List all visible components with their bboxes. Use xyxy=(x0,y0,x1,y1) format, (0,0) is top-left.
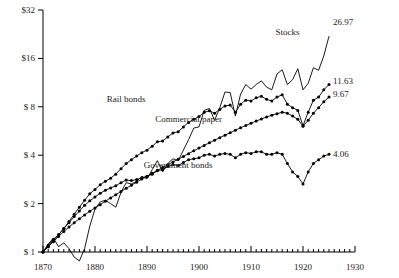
series-marker-commercial-paper xyxy=(109,196,112,199)
series-marker-rail-bonds xyxy=(255,96,258,99)
series-marker-government-bonds xyxy=(135,178,138,181)
series-marker-rail-bonds xyxy=(260,95,263,98)
series-marker-rail-bonds xyxy=(120,167,123,170)
series-marker-rail-bonds xyxy=(78,206,81,209)
series-marker-rail-bonds xyxy=(172,131,175,134)
series-marker-rail-bonds xyxy=(322,88,325,91)
series-marker-commercial-paper xyxy=(317,106,320,109)
series-marker-commercial-paper xyxy=(276,112,279,115)
series-marker-rail-bonds xyxy=(328,83,331,86)
series-marker-commercial-paper xyxy=(213,139,216,142)
series-marker-government-bonds xyxy=(146,175,149,178)
series-marker-commercial-paper xyxy=(73,221,76,224)
series-marker-rail-bonds xyxy=(109,177,112,180)
series-marker-commercial-paper xyxy=(244,124,247,127)
series-marker-rail-bonds xyxy=(291,106,294,109)
series-marker-government-bonds xyxy=(42,251,45,254)
x-axis-tick-label: 1900 xyxy=(190,262,209,272)
series-marker-commercial-paper xyxy=(328,96,331,99)
series-marker-government-bonds xyxy=(224,152,227,155)
series-marker-commercial-paper xyxy=(99,203,102,206)
series-marker-commercial-paper xyxy=(296,118,299,121)
series-marker-rail-bonds xyxy=(239,103,242,106)
x-axis-tick-label: 1910 xyxy=(242,262,261,272)
series-marker-rail-bonds xyxy=(83,199,86,202)
x-axis-tick-label: 1870 xyxy=(34,262,53,272)
series-marker-commercial-paper xyxy=(229,131,232,134)
series-marker-government-bonds xyxy=(286,162,289,165)
series-marker-rail-bonds xyxy=(229,104,232,107)
series-marker-commercial-paper xyxy=(68,226,71,229)
series-marker-rail-bonds xyxy=(265,98,268,101)
series-marker-government-bonds xyxy=(78,209,81,212)
series-marker-government-bonds xyxy=(234,156,237,159)
series-marker-government-bonds xyxy=(104,189,107,192)
series-line-stocks xyxy=(43,36,329,261)
series-label-commercial-paper: Commercial paper xyxy=(155,114,222,124)
y-axis-tick-label: $ 8 xyxy=(24,102,36,112)
series-marker-commercial-paper xyxy=(125,187,128,190)
series-end-value-government-bonds: 4.06 xyxy=(333,149,349,159)
series-marker-rail-bonds xyxy=(161,140,164,143)
series-marker-commercial-paper xyxy=(88,210,91,213)
series-marker-government-bonds xyxy=(296,175,299,178)
series-marker-government-bonds xyxy=(255,150,258,153)
series-marker-rail-bonds xyxy=(276,96,279,99)
series-marker-rail-bonds xyxy=(182,125,185,128)
series-marker-commercial-paper xyxy=(281,111,284,114)
series-marker-government-bonds xyxy=(125,179,128,182)
series-marker-rail-bonds xyxy=(88,192,91,195)
series-marker-government-bonds xyxy=(302,182,305,185)
series-marker-commercial-paper xyxy=(62,230,65,233)
series-marker-rail-bonds xyxy=(156,140,159,143)
x-axis-tick-label: 1930 xyxy=(346,262,365,272)
series-marker-government-bonds xyxy=(307,170,310,173)
series-marker-rail-bonds xyxy=(146,149,149,152)
series-marker-commercial-paper xyxy=(312,112,315,115)
chart-container: $ 1$ 2$ 4$ 8$16$321870188018901900191019… xyxy=(0,0,399,278)
series-label-government-bonds: Government bonds xyxy=(144,160,213,170)
series-marker-rail-bonds xyxy=(125,162,128,165)
series-marker-government-bonds xyxy=(73,215,76,218)
series-marker-commercial-paper xyxy=(114,193,117,196)
series-end-value-rail-bonds: 11.63 xyxy=(333,76,353,86)
stock-and-bond-index-chart: $ 1$ 2$ 4$ 8$16$321870188018901900191019… xyxy=(0,0,399,278)
series-marker-commercial-paper xyxy=(224,134,227,137)
series-marker-commercial-paper xyxy=(291,115,294,118)
series-marker-rail-bonds xyxy=(218,108,221,111)
series-marker-commercial-paper xyxy=(286,112,289,115)
series-marker-rail-bonds xyxy=(270,99,273,102)
series-marker-rail-bonds xyxy=(104,180,107,183)
series-marker-government-bonds xyxy=(281,153,284,156)
series-marker-government-bonds xyxy=(57,233,60,236)
series-marker-government-bonds xyxy=(203,154,206,157)
series-marker-commercial-paper xyxy=(120,190,123,193)
series-marker-commercial-paper xyxy=(198,147,201,150)
series-marker-rail-bonds xyxy=(286,103,289,106)
series-marker-commercial-paper xyxy=(302,125,305,128)
y-axis-tick-label: $ 2 xyxy=(24,199,35,209)
series-marker-government-bonds xyxy=(312,162,315,165)
series-marker-commercial-paper xyxy=(265,115,268,118)
series-marker-rail-bonds xyxy=(94,188,97,191)
y-axis-tick-label: $ 4 xyxy=(24,150,36,160)
series-marker-commercial-paper xyxy=(322,100,325,103)
y-axis-tick-label: $32 xyxy=(22,5,36,15)
series-marker-commercial-paper xyxy=(78,217,81,220)
series-marker-commercial-paper xyxy=(260,117,263,120)
series-marker-rail-bonds xyxy=(203,111,206,114)
series-marker-government-bonds xyxy=(317,158,320,161)
series-marker-commercial-paper xyxy=(218,136,221,139)
series-marker-government-bonds xyxy=(88,199,91,202)
series-marker-rail-bonds xyxy=(244,99,247,102)
series-marker-commercial-paper xyxy=(203,144,206,147)
series-marker-government-bonds xyxy=(244,151,247,154)
series-marker-rail-bonds xyxy=(250,99,253,102)
series-marker-rail-bonds xyxy=(130,158,133,161)
series-marker-rail-bonds xyxy=(166,135,169,138)
series-marker-government-bonds xyxy=(328,153,331,156)
series-marker-commercial-paper xyxy=(270,114,273,117)
series-marker-government-bonds xyxy=(130,179,133,182)
series-end-value-commercial-paper: 9.67 xyxy=(333,89,349,99)
series-marker-commercial-paper xyxy=(208,141,211,144)
